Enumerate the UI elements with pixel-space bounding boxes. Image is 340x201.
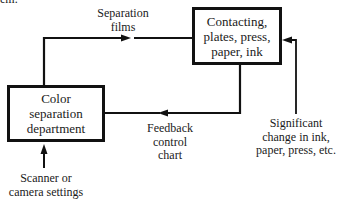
cropped-text-fragment: em. — [0, 0, 18, 6]
color-separation-department-box: Color separation department — [7, 85, 105, 142]
contacting-plates-press-box: Contacting, plates, press, paper, ink — [192, 7, 282, 65]
feedback-control-chart-label: Feedback control chart — [140, 122, 200, 163]
contacting-plates-press-label: Contacting, plates, press, paper, ink — [204, 14, 271, 59]
scanner-settings-arrow — [41, 144, 48, 168]
separation-films-label: Separation films — [92, 7, 154, 34]
significant-change-arrow — [282, 37, 296, 115]
feedback-arrow — [104, 64, 240, 117]
color-separation-department-label: Color separation department — [27, 91, 85, 136]
separation-films-arrow — [44, 35, 194, 86]
significant-change-label: Significant change in ink, paper, press,… — [250, 117, 340, 158]
scanner-camera-settings-label: Scanner or camera settings — [0, 172, 92, 199]
